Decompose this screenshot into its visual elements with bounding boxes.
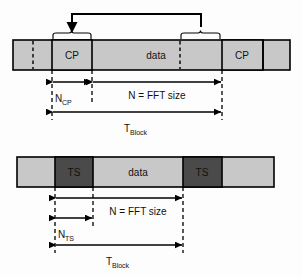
- ts-first-label: TS: [68, 167, 81, 178]
- data-label: data: [128, 167, 148, 178]
- n-cp-subscript: CP: [62, 99, 72, 106]
- n-fft-label-bottom: N = FFT size: [109, 206, 167, 217]
- n-ts-subscript: TS: [65, 235, 74, 242]
- t-block-subscript-top: Block: [130, 129, 148, 136]
- n-fft-label-top: N = FFT size: [128, 90, 186, 101]
- figure-canvas: CP data CP N CP N = FFT size T Block: [0, 0, 302, 277]
- cp-first-label: CP: [65, 50, 79, 61]
- cp-ofdm-block-strip: CP data CP: [13, 40, 290, 70]
- ts-second-label: TS: [196, 167, 209, 178]
- cp-second-label: CP: [235, 50, 249, 61]
- timing-diagram-svg: CP data CP N CP N = FFT size T Block: [0, 0, 302, 277]
- ts-block-strip: TS data TS: [17, 157, 274, 187]
- data-label: data: [146, 50, 166, 61]
- t-block-subscript-bottom: Block: [112, 262, 130, 269]
